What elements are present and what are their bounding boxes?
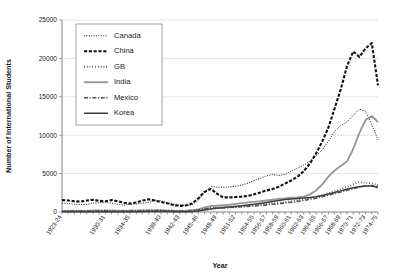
x-axis-tick-label: 1934-35 [112,213,131,236]
x-axis-title: Year [212,261,227,270]
legend-label-mexico: Mexico [114,93,138,102]
legend-label-canada: Canada [114,31,141,40]
y-axis-tick-label: 25000 [39,16,58,23]
y-axis-tick-label: 15000 [39,93,58,100]
chart-container: 05000100001500020000250001923-241930-311… [0,0,393,273]
x-axis-tick-label: 1945-46 [181,213,200,236]
series-line-india [62,116,378,211]
x-axis-tick-label: 1948-49 [199,213,218,236]
x-axis-tick-label: 1951-52 [218,213,237,236]
legend-label-china: China [114,46,135,55]
y-axis-tick-label: 10000 [39,132,58,139]
x-axis-tick-label: 1942-43 [162,213,181,236]
x-axis-tick-label: 1923-24 [44,213,63,236]
line-chart: 05000100001500020000250001923-241930-311… [0,0,393,273]
legend-label-india: India [114,77,131,86]
y-axis-tick-label: 20000 [39,55,58,62]
x-axis-tick-label: 1939-40 [143,213,162,236]
y-axis-tick-label: 5000 [42,170,57,177]
y-axis-title: Number of International Students [4,59,13,173]
legend-label-korea: Korea [114,108,135,117]
x-axis-tick-label: 1930-31 [88,213,107,236]
series-line-korea [62,186,378,212]
legend-label-gb: GB [114,62,125,71]
